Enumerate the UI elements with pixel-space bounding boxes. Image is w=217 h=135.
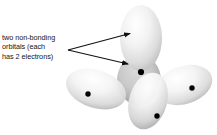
caption-line-1: two non-bonding bbox=[2, 33, 72, 42]
electron-dot-left bbox=[85, 91, 90, 96]
caption-line-2: orbitals (each bbox=[2, 42, 72, 51]
orbital-diagram-figure: two non-bonding orbitals (each has 2 ele… bbox=[0, 0, 217, 135]
orbital-diagram-canvas bbox=[0, 0, 217, 135]
annotation-caption: two non-bonding orbitals (each has 2 ele… bbox=[2, 33, 72, 61]
annotation-arrow-back bbox=[68, 50, 128, 64]
electron-dot-bottom bbox=[154, 113, 159, 118]
caption-line-3: has 2 electrons) bbox=[2, 52, 72, 61]
electron-dot-center bbox=[138, 69, 144, 75]
lobe-top bbox=[120, 5, 162, 71]
electron-dot-right bbox=[189, 85, 194, 90]
